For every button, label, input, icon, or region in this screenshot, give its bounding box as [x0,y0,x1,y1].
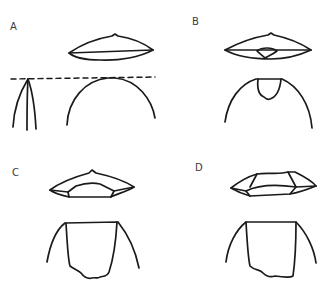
inner-face-d [246,185,296,191]
lens-outline-b [225,33,311,59]
panel-label-b: B [192,17,199,27]
lens-outline-a [69,34,153,60]
rect-cut-c [66,222,117,278]
facet-right-d [296,186,316,187]
notched-dome-outline [225,79,312,128]
facet-top-right-d [288,172,296,194]
pointed-arch-right [28,79,36,129]
panel-label-d: D [195,163,203,173]
pointed-arch-left [13,79,28,127]
panel-b [225,33,312,128]
inner-face-c [68,183,114,197]
lens-midline-a [69,50,153,53]
panel-label-a: A [10,22,17,32]
rect-cut-d [246,222,296,277]
flat-dome-d [226,222,316,263]
dome-notch [258,79,281,99]
pointed-arch-middle [27,79,28,130]
tangent-dashed-line [11,77,155,79]
panel-label-c: C [12,168,19,178]
diagram-figure: A B C D [0,0,327,294]
flat-dome-c [47,222,139,268]
diagram-drawing [0,0,327,294]
panel-a [11,34,155,130]
panel-d [226,172,316,277]
faceted-lens-outline-d [231,172,316,196]
rounded-dome [67,78,155,125]
panel-c [47,170,139,278]
